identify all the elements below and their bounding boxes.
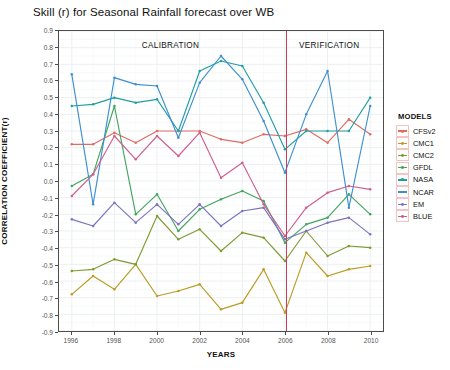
y-tick-label: 0.4 <box>44 110 53 117</box>
legend-item-cmc1[interactable]: CMC1 <box>396 137 450 149</box>
phase-label-calibration: CALIBRATION <box>142 41 199 50</box>
x-tick-mark <box>71 332 72 335</box>
x-tick-mark <box>371 332 372 335</box>
x-tick-mark <box>114 332 115 335</box>
legend-item-nasa[interactable]: NASA <box>396 174 450 186</box>
x-tick-label: 2010 <box>364 337 379 344</box>
plot-panel: CALIBRATIONVERIFICATION <box>58 30 384 332</box>
x-tick-label: 2002 <box>192 337 207 344</box>
legend-item-ncar[interactable]: NCAR <box>396 186 450 198</box>
y-tick-label: 0.3 <box>44 127 53 134</box>
legend-key-em <box>396 198 409 210</box>
legend: MODELS CFSv2CMC1CMC2GFDLNASANCAREMBLUE <box>396 112 450 223</box>
y-tick-mark <box>55 332 58 333</box>
y-tick-label: -0.6 <box>42 278 53 285</box>
x-tick-label: 1996 <box>64 337 79 344</box>
y-tick-label: 0.8 <box>44 43 53 50</box>
legend-key-ncar <box>396 186 409 198</box>
y-tick-label: -0.4 <box>42 245 53 252</box>
legend-label: NASA <box>413 175 433 184</box>
y-tick-label: 0.5 <box>44 94 53 101</box>
y-tick-label: 0.1 <box>44 161 53 168</box>
x-tick-mark <box>285 332 286 335</box>
chart-title: Skill (r) for Seasonal Rainfall forecast… <box>33 6 274 18</box>
legend-item-cmc2[interactable]: CMC2 <box>396 149 450 161</box>
legend-item-gfdl[interactable]: GFDL <box>396 162 450 174</box>
legend-key-gfdl <box>396 162 409 174</box>
x-axis-title: YEARS <box>207 350 236 359</box>
x-tick-mark <box>242 332 243 335</box>
legend-label: CMC2 <box>413 151 434 160</box>
y-tick-label: -0.2 <box>42 211 53 218</box>
y-tick-label: 0.2 <box>44 144 53 151</box>
legend-key-blue <box>396 210 409 222</box>
legend-key-nasa <box>396 174 409 186</box>
x-tick-label: 2008 <box>321 337 336 344</box>
x-tick-label: 2006 <box>278 337 293 344</box>
legend-label: NCAR <box>413 188 434 197</box>
y-tick-label: -0.8 <box>42 312 53 319</box>
legend-key-cfsv2 <box>396 125 409 137</box>
legend-title: MODELS <box>398 112 450 121</box>
legend-label: BLUE <box>413 212 432 221</box>
phase-annotations: CALIBRATIONVERIFICATION <box>59 31 383 331</box>
y-tick-label: 0.9 <box>44 27 53 34</box>
legend-label: CFSv2 <box>413 127 436 136</box>
y-tick-label: -0.9 <box>42 329 53 336</box>
y-tick-label: -0.3 <box>42 228 53 235</box>
phase-label-verification: VERIFICATION <box>299 41 359 50</box>
legend-item-blue[interactable]: BLUE <box>396 210 450 222</box>
legend-key-cmc1 <box>396 137 409 149</box>
legend-item-em[interactable]: EM <box>396 198 450 210</box>
legend-label: EM <box>413 200 424 209</box>
y-tick-label: -0.7 <box>42 295 53 302</box>
y-tick-label: -0.5 <box>42 261 53 268</box>
legend-items: CFSv2CMC1CMC2GFDLNASANCAREMBLUE <box>396 125 450 223</box>
legend-item-cfsv2[interactable]: CFSv2 <box>396 125 450 137</box>
x-tick-label: 2000 <box>149 337 164 344</box>
y-tick-label: -0.1 <box>42 194 53 201</box>
x-tick-mark <box>157 332 158 335</box>
x-tick-mark <box>328 332 329 335</box>
y-tick-label: 0.7 <box>44 60 53 67</box>
x-tick-label: 1998 <box>106 337 121 344</box>
legend-label: CMC1 <box>413 139 434 148</box>
legend-label: GFDL <box>413 163 433 172</box>
chart-figure: Skill (r) for Seasonal Rainfall forecast… <box>0 0 450 370</box>
y-tick-label: 0.0 <box>44 178 53 185</box>
x-tick-mark <box>200 332 201 335</box>
x-tick-label: 2004 <box>235 337 250 344</box>
legend-key-cmc2 <box>396 149 409 161</box>
y-tick-label: 0.6 <box>44 77 53 84</box>
y-axis-title: CORRELATION COEFFICIENT(r) <box>0 117 9 244</box>
